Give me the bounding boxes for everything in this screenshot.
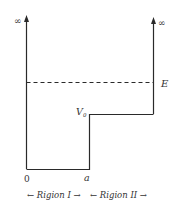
potential-profile	[27, 115, 154, 170]
right-arrowhead-icon	[151, 17, 156, 24]
potential-v0-label: V0	[76, 106, 87, 118]
infinity-left-label: ∞	[14, 16, 22, 26]
region-1-label: ← Rigion I →	[27, 190, 81, 200]
position-a-label: a	[84, 172, 90, 183]
region-2-label: ← Rigion II →	[90, 190, 147, 200]
potential-diagram: ∞ ∞ E V0 0 a ← Rigion I → ← Rigion II →	[0, 0, 178, 209]
left-arrowhead-icon	[24, 15, 29, 22]
origin-label: 0	[24, 174, 30, 184]
energy-label: E	[160, 78, 169, 89]
infinity-right-label: ∞	[158, 18, 166, 28]
